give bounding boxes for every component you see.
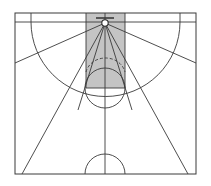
basketball-court-diagram	[0, 0, 211, 186]
hoop-rim-icon	[102, 20, 108, 26]
court-svg	[0, 0, 211, 186]
